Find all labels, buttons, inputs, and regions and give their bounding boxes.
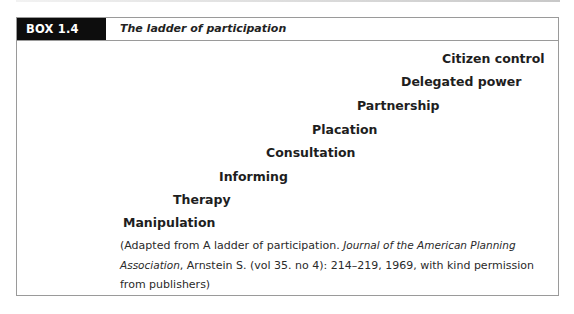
rung-manipulation: Manipulation [123,215,215,231]
box-label: BOX 1.4 [17,18,106,40]
rung-placation: Placation [312,122,377,138]
rung-therapy: Therapy [173,192,231,208]
caption-prefix: (Adapted from A ladder of participation. [120,239,343,252]
caption-suffix: , Arnstein S. (vol 35. no 4): 214–219, 1… [120,259,534,292]
rung-informing: Informing [219,169,288,185]
box-header: BOX 1.4 The ladder of participation [17,18,558,41]
rung-partnership: Partnership [357,98,440,114]
rung-citizen-control: Citizen control [442,51,545,67]
rung-consultation: Consultation [266,145,355,161]
top-rule [16,0,560,2]
rung-delegated-power: Delegated power [401,74,521,90]
box-title: The ladder of participation [120,18,286,40]
caption: (Adapted from A ladder of participation.… [120,236,550,295]
box-figure: BOX 1.4 The ladder of participation Citi… [16,17,559,296]
truncated-text-line [150,306,530,314]
